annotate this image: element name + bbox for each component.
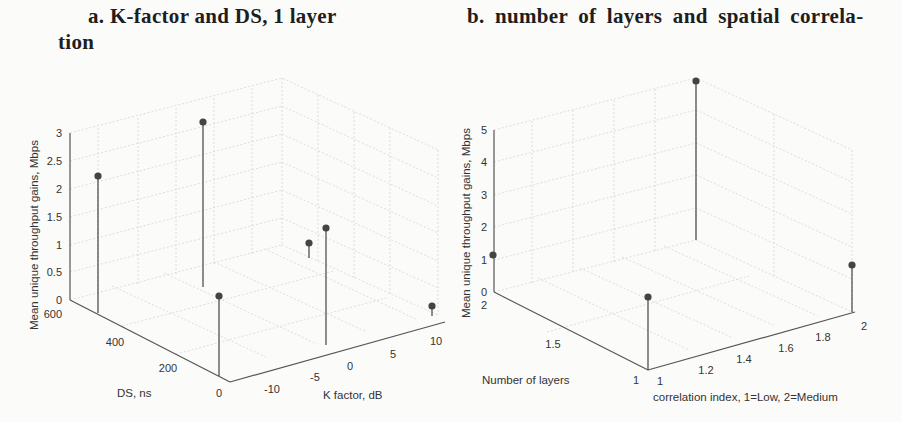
- svg-text:0: 0: [216, 387, 222, 399]
- svg-text:1.4: 1.4: [736, 353, 751, 365]
- svg-text:10: 10: [430, 335, 442, 347]
- chart-a-point: [199, 118, 206, 125]
- chart-a-point: [215, 292, 222, 299]
- svg-text:0: 0: [481, 286, 487, 298]
- svg-text:200: 200: [159, 362, 177, 374]
- svg-text:1: 1: [481, 254, 487, 266]
- chart-a-point: [94, 172, 101, 179]
- chart-a-point: [322, 224, 329, 231]
- chart-b-layers-ticks: 2 1.5 1: [481, 299, 639, 386]
- chart-b-stems: [489, 77, 855, 370]
- svg-text:600: 600: [44, 308, 62, 320]
- chart-b-layers-axis: [494, 292, 648, 370]
- chart-b-layers-label: Number of layers: [482, 374, 570, 386]
- svg-text:3: 3: [56, 127, 62, 139]
- svg-text:1.5: 1.5: [545, 338, 560, 350]
- chart-b-z-label: Mean unique throughput gains, Mbps: [460, 128, 472, 318]
- svg-text:3: 3: [481, 189, 487, 201]
- charts-canvas: 3 2.5 2 1.5 1 0.5 0 600 400 200 0 -10 -5…: [0, 0, 902, 422]
- svg-text:1.8: 1.8: [815, 331, 830, 343]
- svg-text:2: 2: [861, 320, 867, 332]
- svg-text:1.5: 1.5: [47, 211, 62, 223]
- chart-b-point: [692, 77, 699, 84]
- chart-a-k-label: K factor, dB: [323, 389, 383, 401]
- chart-a-grid: [70, 78, 438, 357]
- svg-text:5: 5: [390, 348, 396, 360]
- svg-text:4: 4: [481, 156, 487, 168]
- chart-a-ds-ticks: 600 400 200 0: [44, 308, 222, 399]
- svg-text:-10: -10: [264, 383, 280, 395]
- svg-text:0.5: 0.5: [47, 266, 62, 278]
- chart-b-corr-label: correlation index, 1=Low, 2=Medium: [653, 391, 838, 403]
- svg-text:400: 400: [106, 336, 124, 348]
- svg-text:1: 1: [56, 239, 62, 251]
- chart-a-stems: [94, 118, 435, 376]
- svg-text:2.5: 2.5: [47, 155, 62, 167]
- chart-a: 3 2.5 2 1.5 1 0.5 0 600 400 200 0 -10 -5…: [28, 78, 445, 401]
- svg-text:1.6: 1.6: [778, 342, 793, 354]
- svg-text:1: 1: [657, 375, 663, 387]
- svg-text:2: 2: [56, 183, 62, 195]
- svg-text:2: 2: [481, 221, 487, 233]
- chart-b-point: [489, 251, 496, 258]
- svg-text:-5: -5: [310, 371, 320, 383]
- chart-a-ds-label: DS, ns: [117, 387, 152, 399]
- chart-b-point: [644, 293, 651, 300]
- chart-b-z-ticks: 5 4 3 2 1 0: [481, 124, 487, 298]
- chart-a-z-label: Mean unique throughput gains, Mbps: [28, 140, 40, 330]
- svg-text:0: 0: [347, 360, 353, 372]
- svg-text:1.2: 1.2: [698, 364, 713, 376]
- svg-text:5: 5: [481, 124, 487, 136]
- chart-a-z-ticks: 3 2.5 2 1.5 1 0.5 0: [47, 127, 62, 306]
- chart-b-corr-ticks: 1 1.2 1.4 1.6 1.8 2: [657, 320, 867, 387]
- chart-a-point: [305, 239, 312, 246]
- chart-b: 5 4 3 2 1 0 2 1.5 1 1 1.2 1.4 1.6 1.8 2 …: [460, 77, 867, 403]
- chart-a-point: [428, 302, 435, 309]
- chart-b-grid: [494, 78, 852, 350]
- chart-a-ds-axis: [70, 300, 230, 382]
- chart-b-point: [848, 261, 855, 268]
- svg-text:1: 1: [633, 374, 639, 386]
- svg-text:2: 2: [481, 299, 487, 311]
- svg-text:0: 0: [56, 294, 62, 306]
